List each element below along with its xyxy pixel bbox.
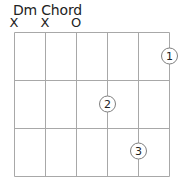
- grid-lines: [15, 33, 170, 177]
- svg-text:1: 1: [166, 50, 173, 63]
- svg-text:2: 2: [104, 98, 111, 111]
- finger-dot-1: 1: [162, 48, 178, 64]
- fretboard-grid: 1 2 3: [0, 0, 188, 184]
- finger-dot-3: 3: [131, 143, 147, 159]
- finger-dot-2: 2: [100, 96, 116, 112]
- svg-text:3: 3: [135, 145, 142, 158]
